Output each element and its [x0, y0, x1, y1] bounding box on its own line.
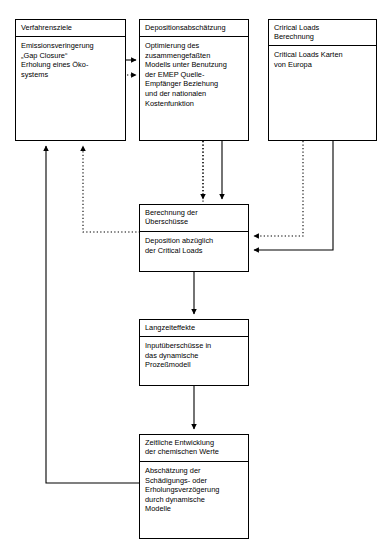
node-berechnung-der-ueberschuesse-title: Berechnung der Überschüsse	[140, 205, 248, 232]
node-berechnung-der-ueberschuesse-body: Deposition abzüglich der Critical Loads	[140, 232, 248, 258]
node-depositionsabschaetzung-title: Depositionsabschätzung	[140, 20, 248, 37]
node-zeitliche-entwicklung[interactable]: Zeitliche Entwicklung der chemischen Wer…	[139, 434, 249, 539]
node-verfahrensziele-body: Emissionsveringerung „Gap Closure“ Erhol…	[16, 37, 125, 82]
node-langzeiteffekte-title: Langzeiteffekte	[140, 320, 248, 337]
node-berechnung-der-ueberschuesse[interactable]: Berechnung der Überschüsse Deposition ab…	[139, 204, 249, 272]
node-verfahrensziele-title: Verfahrensziele	[16, 20, 125, 37]
edge-criticalloads-to-exceedance	[254, 141, 333, 250]
node-depositionsabschaetzung-body: Optimierung des zusammengefaßten Modells…	[140, 37, 248, 111]
edge-criticalloads-to-exceedance-dotted	[254, 141, 303, 236]
node-zeitliche-entwicklung-title: Zeitliche Entwicklung der chemischen Wer…	[140, 435, 248, 462]
node-critical-loads-berechnung-body: Critical Loads Karten von Europa	[269, 46, 376, 72]
node-verfahrensziele[interactable]: Verfahrensziele Emissionsveringerung „Ga…	[15, 19, 126, 141]
node-langzeiteffekte-body: Inputüberschüsse in das dynamische Proze…	[140, 337, 248, 373]
node-zeitliche-entwicklung-body: Abschätzung der Schädigungs- oder Erholu…	[140, 462, 248, 517]
edge-temporal-to-goals	[46, 146, 139, 483]
node-critical-loads-berechnung[interactable]: Crirical Loads Berechnung Critical Loads…	[268, 19, 377, 141]
node-critical-loads-berechnung-title: Crirical Loads Berechnung	[269, 20, 376, 46]
node-langzeiteffekte[interactable]: Langzeiteffekte Inputüberschüsse in das …	[139, 319, 249, 386]
node-depositionsabschaetzung[interactable]: Depositionsabschätzung Optimierung des z…	[139, 19, 249, 141]
flowchart-diagram: Verfahrensziele Emissionsveringerung „Ga…	[0, 0, 389, 559]
